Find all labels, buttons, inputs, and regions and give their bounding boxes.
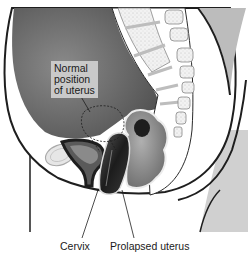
normal-position-line-3: of uterus: [54, 85, 96, 96]
cervix-label: Cervix: [60, 240, 90, 252]
normal-position-label: Normal position of uterus: [51, 61, 98, 98]
pelvis-cross-section-diagram: [0, 0, 248, 257]
prolapsed-uterus-label: Prolapsed uterus: [110, 240, 189, 252]
